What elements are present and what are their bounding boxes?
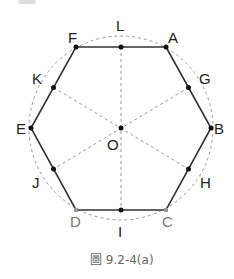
label-I: I [118,223,122,240]
label-C: C [162,213,173,230]
label-E: E [16,120,26,137]
point-G [186,85,191,90]
point-B [209,126,214,131]
point-C [164,208,168,212]
label-G: G [199,70,211,87]
label-A: A [168,29,178,46]
point-K [51,85,56,90]
point-J [51,167,56,172]
point-H [186,167,191,172]
label-J: J [32,174,40,191]
point-D [74,208,78,212]
label-H: H [200,174,211,191]
point-I [119,208,124,213]
label-F: F [68,29,77,46]
label-O: O [107,136,119,153]
label-K: K [32,70,42,87]
point-E [29,126,34,131]
point-L [119,45,124,50]
label-L: L [116,17,124,34]
hexagon-diagram: L F A K G E B O J H D C I 圖 9.2-4(a) [0,0,234,279]
label-D: D [70,213,81,230]
point-O [119,126,124,131]
figure-caption: 圖 9.2-4(a) [90,253,154,267]
label-B: B [214,120,224,137]
